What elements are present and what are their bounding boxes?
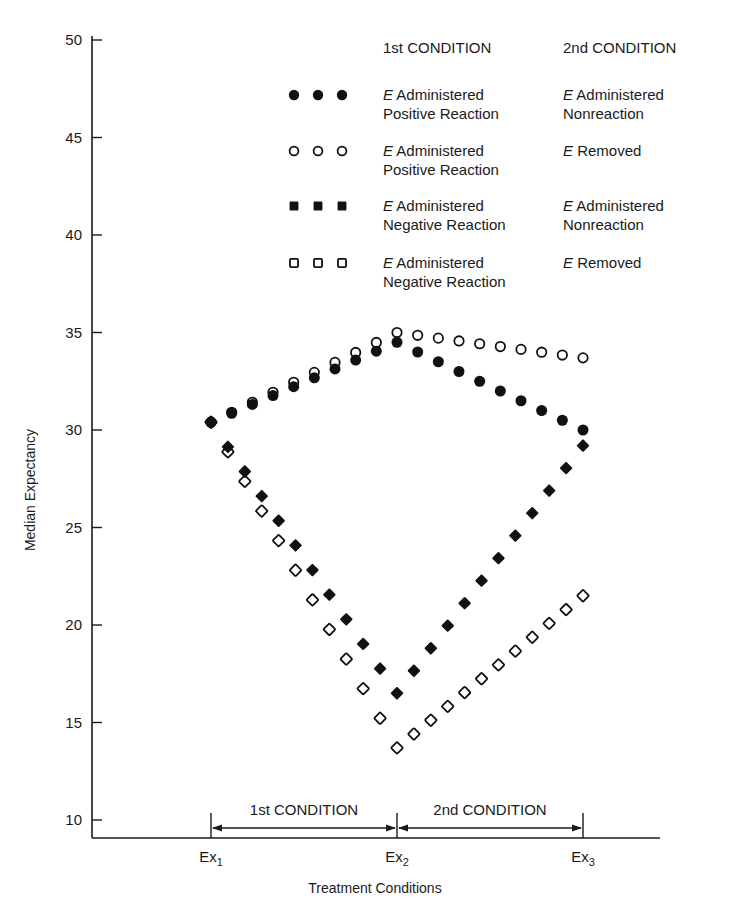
filled-square-marker	[509, 529, 522, 542]
filled-square-marker	[323, 588, 336, 601]
x-axis-category-labels: Ex1Ex2Ex3	[199, 848, 595, 868]
open-square-marker	[374, 712, 386, 724]
span-label-second: 2nd CONDITION	[433, 801, 546, 818]
open-circle-marker	[314, 147, 323, 156]
filled-square-marker	[272, 514, 285, 527]
legend-second-condition: E Removed	[563, 254, 641, 271]
span-label-first: 1st CONDITION	[250, 801, 358, 818]
open-circle-marker	[434, 333, 443, 342]
y-tick-label: 45	[65, 129, 82, 146]
open-circle-marker	[475, 339, 484, 348]
legend-first-condition-line2: Positive Reaction	[383, 161, 499, 178]
filled-circle-marker	[309, 372, 320, 383]
filled-circle-marker	[536, 405, 547, 416]
filled-circle-marker	[454, 366, 465, 377]
legend-second-condition-line2: Nonreaction	[563, 105, 644, 122]
filled-square-marker	[441, 619, 454, 632]
legend-first-condition: E Administered	[383, 86, 484, 103]
filled-circle-marker	[578, 425, 589, 436]
legend-second-condition: E Administered	[563, 86, 664, 103]
arrow-left-icon	[212, 825, 222, 832]
x-axis-title: Treatment Conditions	[308, 880, 441, 896]
open-square-marker	[338, 259, 346, 267]
filled-circle-marker	[289, 90, 299, 100]
filled-circle-marker	[433, 356, 444, 367]
filled-square-marker	[357, 637, 370, 650]
legend-second-condition: E Removed	[563, 142, 641, 159]
filled-square-marker	[543, 484, 556, 497]
open-square-marker	[290, 259, 298, 267]
open-circle-marker	[392, 328, 401, 337]
open-square-marker	[476, 673, 488, 685]
y-tick-label: 40	[65, 226, 82, 243]
open-square-marker	[290, 564, 302, 576]
y-tick-label: 20	[65, 616, 82, 633]
open-circle-marker	[454, 336, 463, 345]
filled-circle-marker	[206, 417, 217, 428]
plot-area	[204, 328, 589, 754]
y-tick-label: 15	[65, 714, 82, 731]
filled-circle-marker	[226, 408, 237, 419]
filled-circle-marker	[288, 381, 299, 392]
open-circle-marker	[413, 331, 422, 340]
filled-square-marker	[338, 202, 347, 211]
y-tick-label: 10	[65, 811, 82, 828]
filled-circle-marker	[495, 386, 506, 397]
open-circle-marker	[496, 342, 505, 351]
y-tick-label: 50	[65, 31, 82, 48]
open-square-marker	[306, 594, 318, 606]
condition-span-arrows: 1st CONDITION 2nd CONDITION	[211, 801, 583, 838]
y-tick-label: 35	[65, 324, 82, 341]
filled-circle-marker	[337, 90, 347, 100]
open-square-marker	[425, 714, 437, 726]
filled-square-marker	[238, 465, 251, 478]
open-square-marker	[408, 728, 420, 740]
legend-entry: E AdministeredPositive ReactionE Adminis…	[289, 86, 664, 122]
legend-header-second: 2nd CONDITION	[563, 39, 676, 56]
open-square-marker	[273, 535, 285, 547]
arrow-right-icon	[572, 825, 582, 832]
legend-first-condition: E Administered	[383, 197, 484, 214]
arrow-left-icon	[398, 825, 408, 832]
legend-first-condition: E Administered	[383, 254, 484, 271]
filled-square-marker	[475, 574, 488, 587]
legend-second-condition-line2: Nonreaction	[563, 216, 644, 233]
open-circle-marker	[516, 345, 525, 354]
open-square-marker	[340, 653, 352, 665]
y-axis-title: Median Expectancy	[22, 429, 38, 551]
open-square-marker	[357, 683, 369, 695]
x-category-label: Ex1	[199, 848, 223, 868]
series-filled-square	[204, 416, 589, 700]
legend: 1st CONDITION 2nd CONDITION E Administer…	[289, 39, 677, 290]
filled-circle-marker	[412, 347, 423, 358]
filled-square-marker	[290, 202, 299, 211]
legend-entry: E AdministeredNegative ReactionE Removed	[290, 254, 641, 290]
filled-circle-marker	[474, 376, 485, 387]
filled-circle-marker	[371, 346, 382, 357]
legend-first-condition-line2: Negative Reaction	[383, 273, 506, 290]
open-circle-marker	[338, 147, 347, 156]
legend-first-condition-line2: Negative Reaction	[383, 216, 506, 233]
filled-square-marker	[289, 539, 302, 552]
y-tick-label: 25	[65, 519, 82, 536]
filled-square-marker	[306, 563, 319, 576]
filled-square-marker	[314, 202, 323, 211]
y-tick-label: 30	[65, 421, 82, 438]
open-square-marker	[492, 659, 504, 671]
open-square-marker	[323, 623, 335, 635]
filled-square-marker	[407, 664, 420, 677]
filled-circle-marker	[557, 415, 568, 426]
filled-square-marker	[576, 439, 589, 452]
legend-first-condition-line2: Positive Reaction	[383, 105, 499, 122]
open-square-marker	[509, 645, 521, 657]
open-square-marker	[314, 259, 322, 267]
filled-circle-marker	[392, 337, 403, 348]
filled-square-marker	[458, 597, 471, 610]
legend-header-first: 1st CONDITION	[383, 39, 491, 56]
filled-circle-marker	[268, 390, 279, 401]
open-circle-marker	[578, 353, 587, 362]
filled-square-marker	[373, 662, 386, 675]
open-circle-marker	[558, 350, 567, 359]
series-filled-circle	[206, 337, 589, 436]
filled-circle-marker	[330, 363, 341, 374]
